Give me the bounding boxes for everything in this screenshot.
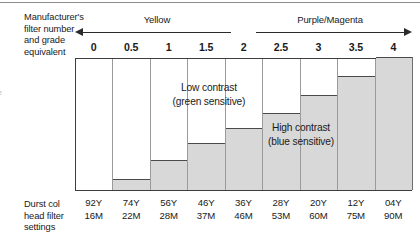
annotation-high-contrast: High contrast (blue sensitive) [226,121,376,148]
grade-number-2: 2 [225,40,262,56]
yellow-band-line [83,32,231,33]
page-margin-artifact: e [0,88,7,112]
filter-setting-1-5: 46Y37M [187,196,224,224]
filter-magenta-value: 16M [75,209,112,222]
annotation-high-contrast-line1: High contrast [272,122,330,133]
manufacturer-filter-label: Manufacturer's filter number and grade e… [24,12,80,58]
grade-number-2-5: 2.5 [262,40,299,56]
filter-magenta-value: 37M [187,209,224,222]
filter-magenta-value: 22M [112,209,149,222]
filter-setting-1: 56Y28M [150,196,187,224]
filter-magenta-value: 90M [375,209,412,222]
filter-setting-3: 20Y60M [300,196,337,224]
filter-yellow-value: 56Y [150,196,187,209]
filter-yellow-value: 28Y [262,196,299,209]
filter-yellow-value: 46Y [187,196,224,209]
grade-number-0-5: 0.5 [112,40,149,56]
filter-magenta-value: 28M [150,209,187,222]
annotation-low-contrast-line2: (green sensitive) [173,96,246,107]
filter-yellow-value: 74Y [112,196,149,209]
filter-yellow-value: 36Y [225,196,262,209]
grade-number-row: 00.511.522.533.54 [75,40,412,56]
filter-setting-2-5: 28Y53M [262,196,299,224]
chart-bar [151,160,188,190]
color-direction-band: Yellow Purple/Magenta [75,14,412,40]
yellow-band: Yellow [75,14,239,40]
grade-number-1-5: 1.5 [187,40,224,56]
filter-setting-0-5: 74Y22M [112,196,149,224]
arrow-left-icon [75,28,83,36]
filter-magenta-value: 75M [337,209,374,222]
bottom-label-line-2: head filter [24,211,82,223]
grade-number-4: 4 [375,40,412,56]
filter-setting-3-5: 12Y75M [337,196,374,224]
page-top-rule [0,2,420,3]
grade-number-3: 3 [300,40,337,56]
grade-number-1: 1 [150,40,187,56]
chart-bar [188,143,225,190]
purple-band-label: Purple/Magenta [248,14,412,26]
filter-yellow-value: 12Y [337,196,374,209]
purple-band-line [256,32,404,33]
filter-setting-4: 04Y90M [375,196,412,224]
left-label-line-4: equivalent [24,47,80,59]
annotation-low-contrast-line1: Low contrast [181,82,237,93]
filter-setting-2: 36Y46M [225,196,262,224]
filter-settings-row: 92Y16M74Y22M56Y28M46Y37M36Y46M28Y53M20Y6… [75,196,412,224]
filter-magenta-value: 60M [300,209,337,222]
bottom-label-line-1: Durst col [24,199,82,211]
purple-band: Purple/Magenta [248,14,412,40]
left-label-line-1: Manufacturer's [24,12,80,24]
bottom-label-line-3: settings [24,222,82,234]
contrast-bar-chart: Low contrast (green sensitive) High cont… [75,58,412,191]
figure-root: Manufacturer's filter number and grade e… [0,0,420,251]
left-label-line-2: filter number [24,24,80,36]
arrow-right-icon [404,28,412,36]
annotation-low-contrast: Low contrast (green sensitive) [136,81,282,108]
chart-bar [113,179,150,190]
durst-head-filter-label: Durst col head filter settings [24,199,82,234]
annotation-high-contrast-line2: (blue sensitive) [268,136,334,147]
chart-bar [376,57,413,190]
left-label-line-3: and grade [24,35,80,47]
yellow-band-label: Yellow [75,14,239,26]
filter-setting-0: 92Y16M [75,196,112,224]
filter-magenta-value: 46M [225,209,262,222]
chart-gridline [112,59,113,190]
grade-number-3-5: 3.5 [337,40,374,56]
grade-number-0: 0 [75,40,112,56]
filter-yellow-value: 04Y [375,196,412,209]
filter-yellow-value: 92Y [75,196,112,209]
filter-magenta-value: 53M [262,209,299,222]
filter-yellow-value: 20Y [300,196,337,209]
